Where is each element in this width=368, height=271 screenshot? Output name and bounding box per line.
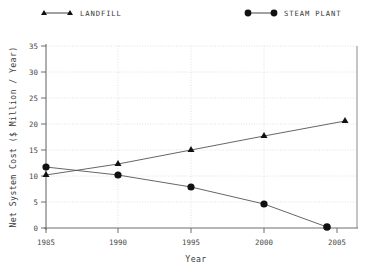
- chart-legend: LANDFILL STEAM PLANT: [41, 9, 342, 18]
- series-line-landfill: [46, 121, 345, 175]
- vertical-gridlines: [118, 46, 264, 228]
- y-tick-label: 20: [29, 120, 38, 129]
- horizontal-gridlines: [46, 46, 357, 202]
- y-tick-label: 25: [29, 94, 38, 103]
- data-point-landfill: [115, 160, 122, 166]
- y-tick-label: 30: [29, 68, 38, 77]
- data-point-steam-plant: [260, 200, 267, 207]
- series-landfill: [43, 117, 349, 177]
- y-tick-label: 0: [34, 224, 38, 233]
- data-point-steam-plant: [187, 183, 194, 190]
- data-point-steam-plant: [42, 163, 49, 170]
- x-tick-label: 1985: [37, 238, 55, 247]
- legend-entry-steam-plant: STEAM PLANT: [245, 9, 342, 18]
- legend-label-landfill: LANDFILL: [80, 9, 122, 18]
- y-tick-label: 5: [34, 198, 38, 207]
- data-point-landfill: [188, 146, 195, 152]
- y-tick-label: 15: [29, 146, 38, 155]
- x-tick-label: 1990: [109, 238, 127, 247]
- y-tick-labels: 0 5 10 15 20 25 30 35: [29, 42, 38, 233]
- data-point-landfill: [342, 117, 349, 123]
- y-axis-title: Net System Cost ($ Million / Year): [8, 46, 18, 227]
- legend-label-steam-plant: STEAM PLANT: [284, 9, 342, 18]
- x-tick-labels: 1985 1990 1995 2000 2005: [37, 238, 346, 247]
- circle-marker: [245, 10, 252, 17]
- plot-area: 0 5 10 15 20 25 30 35 1985 1990: [29, 42, 358, 247]
- data-point-landfill: [43, 171, 50, 177]
- data-point-landfill: [261, 132, 268, 138]
- x-axis-title: Year: [185, 254, 206, 264]
- data-point-steam-plant: [323, 223, 331, 231]
- y-tick-marks: [41, 46, 46, 228]
- chart-container: LANDFILL STEAM PLANT: [0, 0, 368, 271]
- x-tick-label: 2005: [328, 238, 346, 247]
- x-tick-marks: [46, 228, 337, 233]
- legend-entry-landfill: LANDFILL: [41, 9, 122, 18]
- y-tick-label: 35: [29, 42, 38, 51]
- x-tick-label: 1995: [182, 238, 200, 247]
- circle-marker: [271, 10, 278, 17]
- y-tick-label: 10: [29, 172, 38, 181]
- x-tick-label: 2000: [255, 238, 273, 247]
- series-steam-plant: [42, 163, 330, 230]
- data-point-steam-plant: [114, 171, 121, 178]
- line-chart: LANDFILL STEAM PLANT: [0, 0, 368, 271]
